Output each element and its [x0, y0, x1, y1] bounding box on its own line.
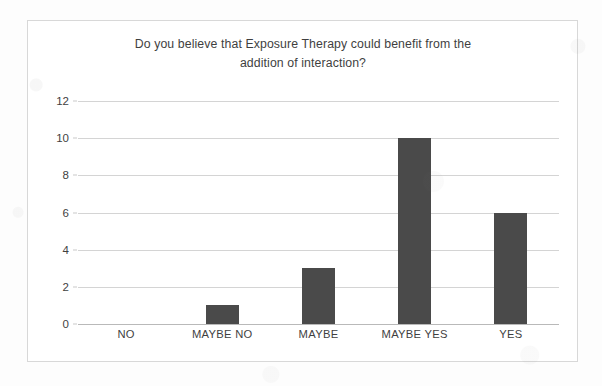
bar-slot-maybe [270, 101, 366, 324]
gridline-0 [78, 324, 559, 325]
x-axis-label-yes: YES [463, 328, 559, 340]
y-axis-tick-label: 0 [63, 318, 69, 330]
bar-slot-maybe-yes [367, 101, 463, 324]
y-tick-mark-8 [73, 175, 77, 176]
y-axis-tick-label: 2 [63, 281, 69, 293]
chart-title-line-2: addition of interaction? [240, 56, 366, 70]
bar-yes[interactable] [494, 213, 527, 325]
bar-slot-maybe-no [174, 101, 270, 324]
y-axis-tick-label: 10 [56, 132, 69, 144]
bars-group [78, 101, 559, 324]
bar-slot-no [78, 101, 174, 324]
bar-slot-yes [463, 101, 559, 324]
y-axis-tick-label: 6 [63, 207, 69, 219]
bar-maybe-yes[interactable] [398, 138, 431, 324]
y-axis-tick-label: 12 [56, 95, 69, 107]
x-axis-labels-group: NOMAYBE NOMAYBEMAYBE YESYES [78, 328, 559, 340]
bar-maybe[interactable] [302, 268, 335, 324]
x-axis-label-maybe: MAYBE [270, 328, 366, 340]
chart-title: Do you believe that Exposure Therapy cou… [68, 35, 538, 73]
y-tick-mark-12 [73, 101, 77, 102]
y-tick-mark-10 [73, 138, 77, 139]
x-axis-label-maybe-yes: MAYBE YES [367, 328, 463, 340]
x-axis-label-no: NO [78, 328, 174, 340]
y-axis-tick-label: 8 [63, 169, 69, 181]
chart-title-line-1: Do you believe that Exposure Therapy cou… [135, 37, 472, 51]
y-tick-mark-6 [73, 212, 77, 213]
y-tick-mark-0 [73, 324, 77, 325]
x-axis-label-maybe-no: MAYBE NO [174, 328, 270, 340]
plot-area: 121086420 [78, 101, 559, 324]
y-axis-tick-label: 4 [63, 244, 69, 256]
bar-maybe-no[interactable] [206, 305, 239, 324]
y-tick-mark-2 [73, 286, 77, 287]
y-tick-mark-4 [73, 249, 77, 250]
chart-container: Do you believe that Exposure Therapy cou… [27, 20, 578, 362]
